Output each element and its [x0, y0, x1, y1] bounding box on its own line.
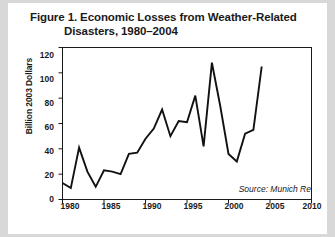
y-axis-ticks	[59, 48, 63, 200]
figure-card: Figure 1. Economic Losses from Weather-R…	[8, 3, 327, 234]
x-axis-ticks	[63, 200, 312, 204]
chart-plot-area: Billion 2003 Dollars 120 100 80 60 40 20…	[8, 3, 327, 234]
chart-svg	[8, 3, 327, 234]
source-note: Source: Munich Re	[239, 184, 311, 194]
